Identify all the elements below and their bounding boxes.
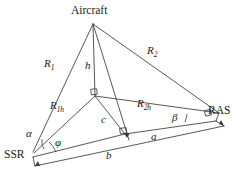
segment-label-r1-subscript: 1 bbox=[51, 63, 55, 72]
segment-aircraft-to-foot bbox=[93, 24, 129, 140]
segment-r2h bbox=[95, 96, 219, 113]
node-label-ras: RAS bbox=[208, 105, 230, 117]
segment-b bbox=[35, 126, 224, 166]
angle-label-alpha: α bbox=[26, 128, 32, 139]
arrowhead-baseline-ras bbox=[219, 120, 224, 126]
segment-label-r2h: R2h bbox=[137, 98, 151, 112]
segment-label-r1: R1 bbox=[44, 58, 54, 72]
baseline-left-edge bbox=[33, 157, 35, 166]
arrowhead-baseline-ssr bbox=[35, 161, 40, 166]
geometry-diagram: Aircraft SSR RAS R1 R2 R1h R2h h c a b α… bbox=[0, 0, 243, 186]
segment-label-r1h-base: R bbox=[50, 99, 57, 111]
arrowhead-foot-point bbox=[124, 133, 130, 138]
segment-r1h bbox=[34, 96, 95, 153]
segment-label-h: h bbox=[85, 60, 91, 71]
angle-arc-beta bbox=[185, 114, 187, 122]
segment-label-r2-base: R bbox=[147, 44, 154, 56]
right-angle-marker-projection bbox=[91, 89, 98, 95]
segment-r1 bbox=[33, 24, 93, 152]
segment-label-r2-subscript: 2 bbox=[154, 50, 158, 59]
segment-label-r2h-base: R bbox=[137, 97, 144, 109]
segment-label-r1h-subscript: 1h bbox=[57, 105, 64, 114]
segment-label-b: b bbox=[106, 150, 112, 161]
node-label-aircraft: Aircraft bbox=[71, 5, 107, 17]
segment-label-r1-base: R bbox=[44, 57, 51, 69]
segment-r2 bbox=[93, 24, 219, 113]
segment-label-a: a bbox=[151, 131, 157, 142]
segment-label-r2h-subscript: 2h bbox=[144, 103, 151, 112]
angle-label-phi: φ bbox=[55, 137, 61, 148]
diagram-canvas bbox=[0, 0, 243, 186]
segment-a bbox=[125, 121, 216, 134]
segment-h bbox=[93, 24, 95, 96]
node-label-ssr: SSR bbox=[4, 149, 24, 161]
segment-label-c: c bbox=[101, 114, 106, 125]
segment-label-r1h: R1h bbox=[50, 100, 64, 114]
segment-label-r2: R2 bbox=[147, 45, 157, 59]
angle-label-beta: β bbox=[172, 112, 177, 123]
